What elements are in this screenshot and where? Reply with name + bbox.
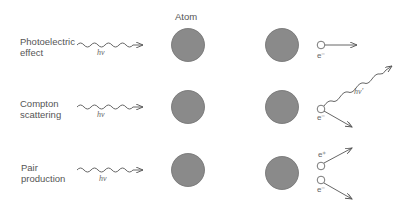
process-label-line1: Compton <box>20 98 61 109</box>
process-label-compton: Compton scattering <box>20 98 61 120</box>
incident-photon-wave-3 <box>77 168 143 172</box>
incident-photon-label-3: hν <box>99 174 107 183</box>
electron-arrow-2 <box>324 111 352 127</box>
electron-label-3: e⁻ <box>317 185 325 194</box>
electron-label-2: e⁻ <box>317 113 325 122</box>
electron-arrow-3 <box>324 183 352 199</box>
incident-photon-label-1: hν <box>97 48 105 57</box>
process-label-photoelectric: Photoelectric effect <box>20 36 75 58</box>
process-label-line2: scattering <box>20 109 61 120</box>
electron-circle-2 <box>317 105 325 113</box>
electron-label-1: e⁻ <box>317 51 325 60</box>
positron-circle <box>317 162 325 170</box>
process-label-line1: Photoelectric <box>20 36 75 47</box>
positron-arrow <box>324 148 352 163</box>
atom-circle-3 <box>172 154 205 187</box>
process-label-line2: production <box>21 173 65 184</box>
atom-circle-after-2 <box>266 91 299 124</box>
incident-photon-wave-1 <box>77 43 143 47</box>
process-label-line2: effect <box>20 47 75 58</box>
incident-photon-label-2: hν <box>97 110 105 119</box>
atom-circle-1 <box>172 29 205 62</box>
incident-photon-wave-2 <box>77 105 143 109</box>
atom-header-label: Atom <box>175 11 197 22</box>
process-label-pair: Pair production <box>21 162 65 184</box>
atom-circle-after-3 <box>266 157 299 190</box>
electron-circle-3 <box>317 176 325 184</box>
scattered-photon-wave <box>324 66 392 106</box>
scattered-photon-label: hν′ <box>354 87 363 96</box>
positron-label: e⁺ <box>318 150 326 159</box>
electron-circle-1 <box>317 41 325 49</box>
atom-circle-2 <box>172 91 205 124</box>
atom-circle-after-1 <box>266 29 299 62</box>
process-label-line1: Pair <box>21 162 65 173</box>
